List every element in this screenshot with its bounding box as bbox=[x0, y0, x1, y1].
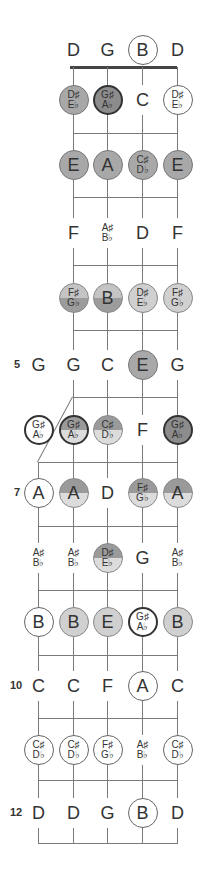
note-enharmonic: E♭ bbox=[68, 100, 80, 110]
note-name: C bbox=[101, 356, 114, 374]
fret-number: 10 bbox=[10, 679, 22, 691]
note-name: G bbox=[66, 356, 80, 374]
note-enharmonic: A♭ bbox=[68, 430, 80, 440]
note-enharmonic: A♭ bbox=[102, 100, 114, 110]
note-name: C bbox=[136, 91, 149, 109]
note-name: F bbox=[172, 224, 183, 242]
string-1 bbox=[177, 67, 178, 843]
banjo-fretboard-diagram: 571012DGBDD♯E♭G♯A♭CD♯E♭EAC♯D♭EFA♯B♭DFF♯G… bbox=[0, 0, 203, 890]
note-marker: A♯B♭ bbox=[163, 543, 193, 573]
note-enharmonic: B♭ bbox=[137, 750, 149, 760]
fret-line bbox=[38, 526, 178, 527]
note-name: G bbox=[170, 356, 184, 374]
note-marker: F♯G♭ bbox=[128, 478, 158, 508]
fret-line bbox=[38, 780, 178, 781]
note-marker: C bbox=[128, 85, 158, 115]
note-marker: F bbox=[93, 671, 123, 701]
note-enharmonic: G♭ bbox=[136, 493, 149, 503]
fret-number: 7 bbox=[14, 486, 20, 498]
note-enharmonic: A♭ bbox=[33, 430, 45, 440]
note-name: E bbox=[136, 356, 148, 374]
note-name: B bbox=[171, 613, 183, 631]
note-marker: D♯E♭ bbox=[93, 543, 123, 573]
note-marker: G bbox=[128, 543, 158, 573]
note-enharmonic: D♭ bbox=[67, 750, 79, 760]
nut bbox=[70, 66, 177, 69]
note-enharmonic: E♭ bbox=[137, 298, 149, 308]
note-marker: C♯D♭ bbox=[59, 735, 89, 765]
note-name: G bbox=[100, 41, 114, 59]
note-name: G bbox=[31, 356, 45, 374]
note-marker: E bbox=[163, 150, 193, 180]
note-marker: G♯A♭ bbox=[93, 85, 123, 115]
note-name: B bbox=[136, 41, 148, 59]
note-name: D bbox=[171, 804, 184, 822]
note-name: C bbox=[67, 677, 80, 695]
note-marker: D bbox=[163, 798, 193, 828]
note-enharmonic: G♭ bbox=[101, 750, 114, 760]
fret-line bbox=[73, 397, 178, 398]
fret-line bbox=[38, 655, 178, 656]
note-name: G bbox=[135, 549, 149, 567]
note-enharmonic: G♭ bbox=[67, 298, 80, 308]
fret-line bbox=[73, 265, 178, 266]
note-marker: A bbox=[128, 671, 158, 701]
note-enharmonic: B♭ bbox=[102, 233, 114, 243]
note-name: A bbox=[171, 484, 183, 502]
note-marker: C♯D♭ bbox=[128, 150, 158, 180]
note-marker: B bbox=[93, 283, 123, 313]
note-name: F bbox=[102, 677, 113, 695]
note-enharmonic: G♭ bbox=[171, 298, 184, 308]
fret-line bbox=[38, 590, 178, 591]
note-marker: A♯B♭ bbox=[59, 543, 89, 573]
note-name: D bbox=[67, 804, 80, 822]
string-3 bbox=[107, 67, 108, 843]
note-marker: D♯E♭ bbox=[128, 283, 158, 313]
note-name: A bbox=[136, 677, 148, 695]
note-marker: D♯E♭ bbox=[59, 85, 89, 115]
note-marker: F bbox=[163, 218, 193, 248]
note-marker: C bbox=[163, 671, 193, 701]
note-marker: D♯E♭ bbox=[163, 85, 193, 115]
note-name: D bbox=[171, 41, 184, 59]
note-marker: G♯A♭ bbox=[59, 415, 89, 445]
note-enharmonic: D♭ bbox=[171, 750, 183, 760]
note-marker: E bbox=[93, 607, 123, 637]
note-name: A bbox=[32, 484, 44, 502]
note-name: D bbox=[101, 484, 114, 502]
note-marker: B bbox=[163, 607, 193, 637]
note-marker: C bbox=[24, 671, 54, 701]
note-enharmonic: D♭ bbox=[32, 750, 44, 760]
note-marker: A bbox=[59, 478, 89, 508]
note-marker: F♯G♭ bbox=[59, 283, 89, 313]
note-marker: D bbox=[59, 798, 89, 828]
fret-number: 5 bbox=[14, 358, 20, 370]
note-marker: D bbox=[24, 798, 54, 828]
note-enharmonic: B♭ bbox=[172, 558, 184, 568]
note-name: D bbox=[67, 41, 80, 59]
note-name: B bbox=[32, 613, 44, 631]
note-marker: B bbox=[24, 607, 54, 637]
note-marker: D bbox=[163, 35, 193, 65]
fret-line bbox=[38, 843, 178, 844]
note-enharmonic: D♭ bbox=[136, 165, 148, 175]
note-name: B bbox=[136, 804, 148, 822]
note-marker: G bbox=[59, 350, 89, 380]
note-marker: C bbox=[59, 671, 89, 701]
string-4 bbox=[73, 67, 74, 843]
note-marker: E bbox=[59, 150, 89, 180]
note-name: C bbox=[171, 677, 184, 695]
note-name: B bbox=[67, 613, 79, 631]
note-enharmonic: B♭ bbox=[33, 558, 45, 568]
note-marker: G bbox=[24, 350, 54, 380]
note-name: C bbox=[32, 677, 45, 695]
note-enharmonic: D♭ bbox=[101, 430, 113, 440]
note-marker: C♯D♭ bbox=[163, 735, 193, 765]
note-marker: E bbox=[128, 350, 158, 380]
note-marker: C♯D♭ bbox=[93, 415, 123, 445]
note-enharmonic: A♭ bbox=[137, 622, 149, 632]
fret-line bbox=[73, 133, 178, 134]
fret-line bbox=[73, 197, 178, 198]
note-marker: G bbox=[93, 798, 123, 828]
note-marker: B bbox=[128, 35, 158, 65]
